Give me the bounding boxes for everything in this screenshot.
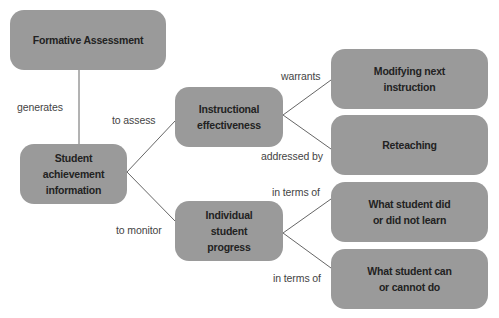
edge-to-assess (127, 121, 175, 172)
node-label: Modifying next instruction (374, 63, 445, 95)
edge-label-in-terms-of-1: in terms of (272, 186, 320, 198)
node-label: What student can or cannot do (367, 263, 451, 295)
node-modifying-next-instruction: Modifying next instruction (331, 49, 488, 109)
node-reteaching: Reteaching (331, 115, 488, 175)
edge-addressed-by (283, 115, 331, 149)
node-individual-student-progress: Individual student progress (175, 201, 283, 261)
edge-in-terms-of-1 (283, 199, 331, 233)
node-instructional-effectiveness: Instructional effectiveness (175, 87, 283, 147)
node-student-achievement-information: Student achievement information (20, 144, 127, 204)
node-label: Reteaching (382, 137, 437, 153)
node-label: Formative Assessment (33, 32, 144, 48)
node-what-student-did-not-learn: What student did or did not learn (331, 182, 488, 242)
node-label: Student achievement information (43, 150, 104, 198)
edge-label-addressed-by: addressed by (261, 150, 323, 162)
edge-label-generates: generates (17, 101, 63, 113)
node-label: What student did or did not learn (369, 196, 451, 228)
node-formative-assessment: Formative Assessment (10, 10, 166, 70)
edge-label-warrants: warrants (281, 70, 320, 82)
edge-in-terms-of-2 (283, 233, 331, 268)
edge-warrants (283, 80, 331, 115)
concept-map: Formative Assessment Student achievement… (0, 0, 499, 318)
edge-label-in-terms-of-2: in terms of (273, 272, 321, 284)
node-what-student-cannot-do: What student can or cannot do (331, 249, 488, 309)
edge-label-to-monitor: to monitor (116, 224, 162, 236)
edge-label-to-assess: to assess (112, 114, 155, 126)
node-label: Individual student progress (205, 207, 252, 255)
edge-to-monitor (127, 172, 175, 221)
node-label: Instructional effectiveness (197, 101, 261, 133)
